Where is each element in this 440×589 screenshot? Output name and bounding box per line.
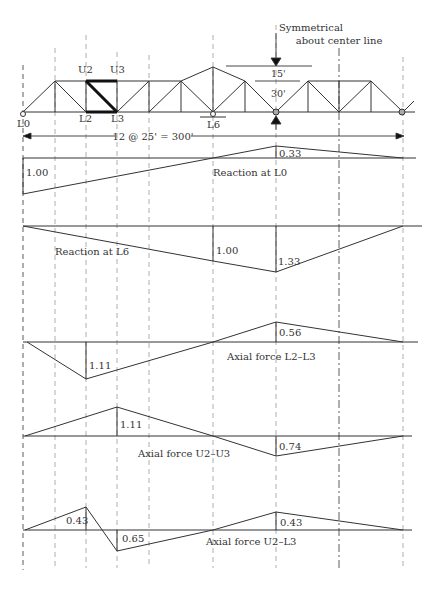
label-U2-L3-0.43-right: 0.43 [280,517,302,528]
span-dimension-label: 12 @ 25' = 300' [112,131,193,142]
label-reaction-L6-1.00: 1.00 [216,245,238,256]
node-label-L6: L6 [207,119,220,130]
height-label-15: 15' [271,68,286,79]
height-label-30: 30' [271,88,286,99]
node-label-L0: L0 [17,118,30,129]
title-U2-U3: Axial force U2–U3 [137,448,230,459]
label-U2-U3-0.74: 0.74 [279,441,301,452]
label-reaction-L6-1.33: 1.33 [278,256,300,267]
label-U2-U3-1.11: 1.11 [120,419,142,430]
hinge-right [399,109,405,115]
span-dimension [23,133,404,139]
node-label-L3: L3 [111,113,124,124]
label-L2-L3-1.11: 1.11 [89,360,111,371]
highlighted-members [86,81,117,112]
hinge-center [273,109,279,115]
pin-L0 [21,112,26,117]
symmetry-note-line2: about center line [296,35,383,46]
title-reaction-L0: Reaction at L0 [213,167,287,178]
label-U2-L3-0.43-left: 0.43 [66,515,88,526]
node-label-U3: U3 [110,64,125,75]
influence-line-L2-L3 [23,322,418,379]
label-L2-L3-0.56: 0.56 [279,327,301,338]
label-reaction-L0-1.00: 1.00 [26,167,48,178]
truss-influence-diagram: 15' 30' U2 U3 L0 L2 L3 L6 Symmetrical ab… [0,0,440,589]
title-U2-L3: Axial force U2–L3 [205,536,296,547]
height-dimensions [226,33,312,130]
label-reaction-L0-0.33: 0.33 [279,148,301,159]
pin-L6 [211,112,216,117]
title-L2-L3: Axial force L2–L3 [226,351,316,362]
node-label-U2: U2 [78,64,93,75]
label-U2-L3-0.65: 0.65 [122,533,144,544]
title-reaction-L6: Reaction at L6 [55,246,129,257]
node-label-L2: L2 [79,113,92,124]
symmetry-note-line1: Symmetrical [279,22,343,33]
